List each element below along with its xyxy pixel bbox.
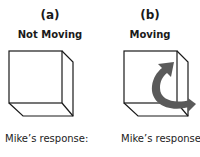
panel-title: Not Moving [0,29,100,40]
cube-icon [0,48,100,123]
panel-letter: (a) [0,8,100,22]
curved-arrow-icon [152,62,196,112]
panel-moving: (b) Moving Mike’s response: [100,0,200,157]
panel-not-moving: (a) Not Moving Mike’s response: [0,0,100,157]
cube-icon [100,48,200,123]
panel-title: Moving [100,29,200,40]
response-label: Mike’s response: [5,133,88,144]
response-label: Mike’s response: [121,133,200,144]
panel-letter: (b) [100,8,200,22]
